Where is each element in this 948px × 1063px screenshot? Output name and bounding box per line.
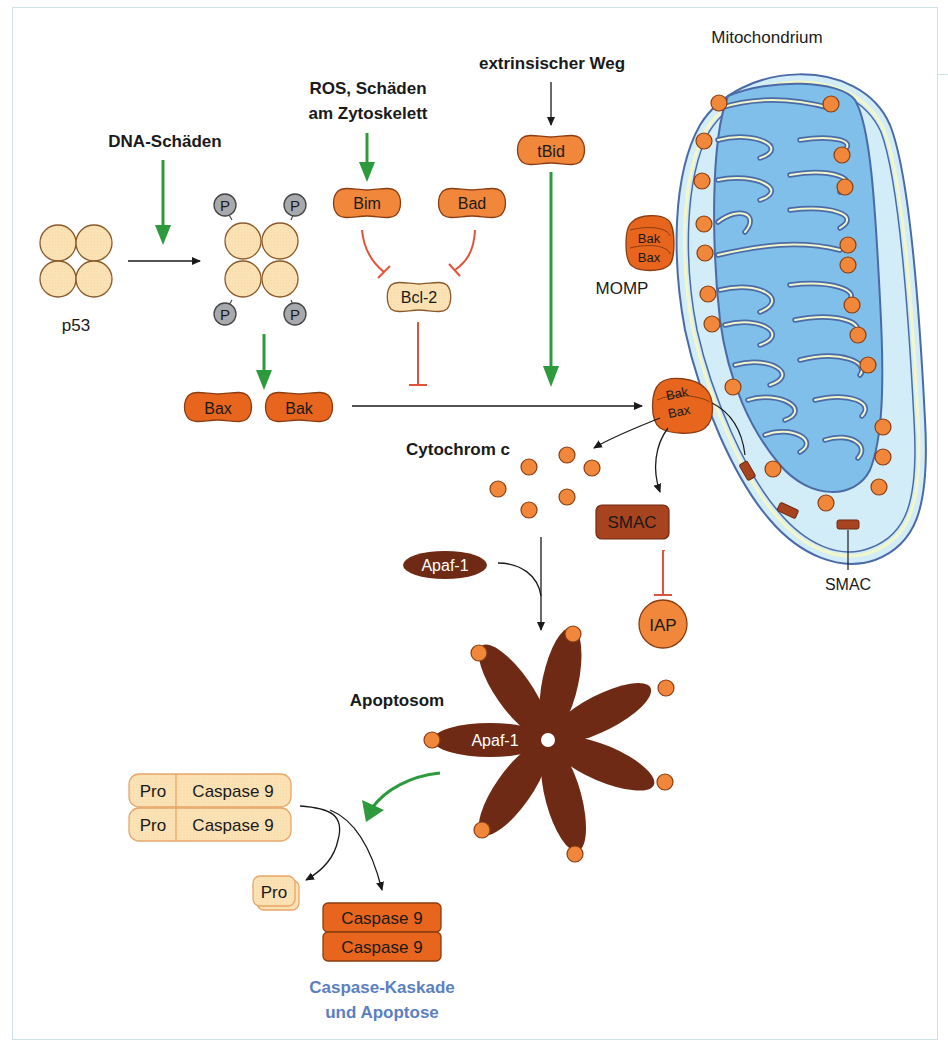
phosphate-label: P <box>220 306 230 323</box>
bax-label: Bax <box>204 400 232 417</box>
ros-arrow <box>359 133 375 182</box>
smac-label: SMAC <box>607 513 656 532</box>
apoptosome-apaf1-label: Apaf-1 <box>471 732 518 749</box>
pro-cleavage-arrow <box>300 806 340 880</box>
p53-tetramer <box>40 225 112 297</box>
dna-damage-label: DNA-Schäden <box>108 132 221 151</box>
iap-label: IAP <box>649 616 676 635</box>
bax-protein: Bax <box>185 392 252 421</box>
smac-inhibit-iap <box>664 0 665 551</box>
cytochrome-release-arrow <box>594 418 660 448</box>
mitochondrion <box>677 74 926 563</box>
apaf1-joining-arrow <box>498 563 541 596</box>
phosphate-label: P <box>220 197 230 214</box>
bad-label: Bad <box>458 195 486 212</box>
pore-bax-label: Bax <box>638 250 661 265</box>
bcl2-protein: Bcl-2 <box>387 282 451 311</box>
smac-callout-label: SMAC <box>825 576 871 593</box>
cytochrome-c-label: Cytochrom c <box>406 440 510 459</box>
bad-protein: Bad <box>439 188 506 217</box>
bim-label: Bim <box>353 195 381 212</box>
procaspase-9-dimer: Pro Caspase 9 Pro Caspase 9 <box>129 774 291 841</box>
apoptosome-label: Apoptosom <box>350 691 444 710</box>
smac-release-arrow <box>656 428 668 492</box>
iap-protein: IAP <box>639 600 687 648</box>
active-caspase-9-dimer: Caspase 9 Caspase 9 <box>323 903 441 961</box>
iap-inhibit-marker <box>654 550 672 595</box>
bcl2-label: Bcl-2 <box>401 289 438 306</box>
ros-label-line2: am Zytoskelett <box>308 104 427 123</box>
pore-bak-label: Bak <box>638 231 661 246</box>
bak-protein: Bak <box>266 392 333 421</box>
phosphate-label: P <box>290 306 300 323</box>
bcl2-inhibit-arrow <box>409 322 427 385</box>
apoptosome: Apaf-1 <box>424 624 674 862</box>
tbid-label: tBid <box>537 143 565 160</box>
p53-to-bax-bak-arrow <box>256 334 272 390</box>
outcome-label-line1: Caspase-Kaskade <box>309 978 455 997</box>
outcome-label-line2: und Apoptose <box>325 1003 439 1022</box>
dna-damage-arrow <box>155 160 171 245</box>
apoptosis-pathway-diagram: DNA-Schäden ROS, Schäden am Zytoskelett … <box>0 0 948 1063</box>
apaf1-label: Apaf-1 <box>421 557 468 574</box>
momp-label: MOMP <box>596 279 649 298</box>
tbid-activation-arrow <box>543 172 559 387</box>
apoptosome-activation-arrow <box>362 773 440 822</box>
phospho-p53-tetramer: P P P P <box>214 194 306 325</box>
extrinsic-pathway-label: extrinsischer Weg <box>479 54 625 73</box>
ros-label-line1: ROS, Schäden <box>309 79 426 98</box>
momp-pore-active: Bak Bax <box>653 378 713 433</box>
cleaved-pro-domain: Pro <box>253 876 299 910</box>
caspase9-label: Caspase 9 <box>192 816 273 835</box>
bak-label: Bak <box>285 400 314 417</box>
caspase9-label: Caspase 9 <box>192 782 273 801</box>
apaf1-free: Apaf-1 <box>403 551 487 579</box>
active-caspase9-label: Caspase 9 <box>341 909 422 928</box>
active-caspase9-label: Caspase 9 <box>341 938 422 957</box>
smac-protein: SMAC <box>596 505 669 539</box>
p53-label: p53 <box>62 316 90 335</box>
tbid-protein: tBid <box>518 135 585 164</box>
bim-protein: Bim <box>334 188 401 217</box>
cleaved-pro-label: Pro <box>261 883 287 902</box>
momp-pore-top: Bak Bax <box>626 216 674 271</box>
bim-bad-inhibit-bcl2 <box>362 230 475 278</box>
pro-domain-label: Pro <box>140 816 166 835</box>
pro-domain-label: Pro <box>140 782 166 801</box>
phosphate-label: P <box>290 197 300 214</box>
mitochondrion-label: Mitochondrium <box>711 28 823 47</box>
